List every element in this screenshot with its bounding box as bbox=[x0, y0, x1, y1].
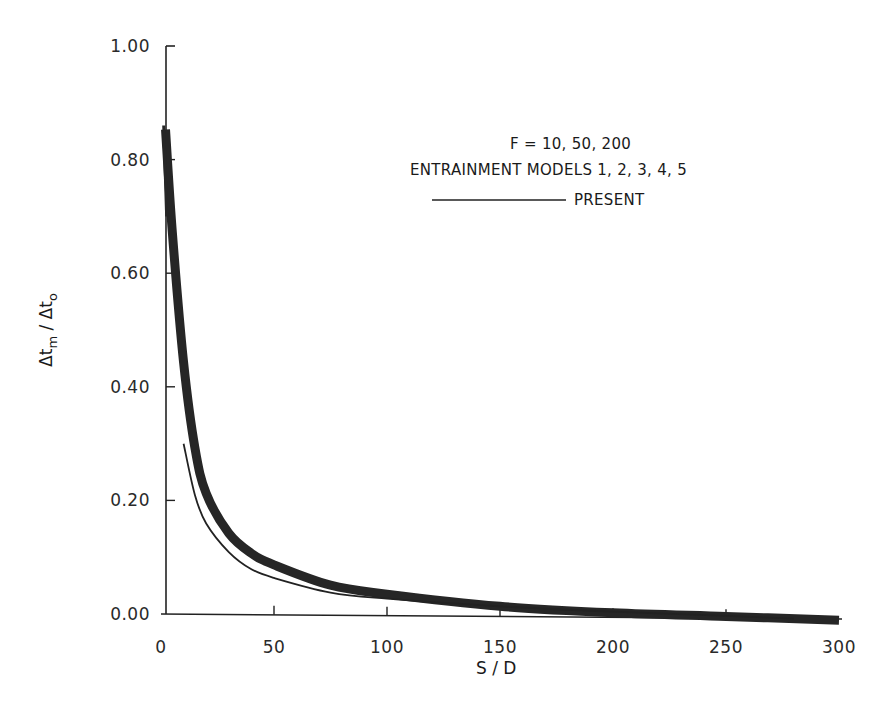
x-tick-label: 150 bbox=[483, 637, 517, 657]
y-tick-label: 0.40 bbox=[110, 377, 150, 397]
x-tick-label: 200 bbox=[596, 637, 630, 657]
chart: 0.000.200.400.600.801.00 050100150200250… bbox=[0, 0, 894, 716]
y-tick-label: 1.00 bbox=[110, 36, 150, 56]
x-tick-label: 250 bbox=[709, 637, 743, 657]
x-tick-label: 0 bbox=[155, 637, 166, 657]
svg-text:Δtm / Δto: Δtm / Δto bbox=[36, 293, 60, 367]
present-curve bbox=[184, 444, 794, 619]
legend-present-label: PRESENT bbox=[574, 191, 645, 209]
legend: F = 10, 50, 200 ENTRAINMENT MODELS 1, 2,… bbox=[410, 135, 687, 209]
y-axis-title-slash: / Δt bbox=[36, 301, 56, 336]
x-tick-label: 300 bbox=[822, 637, 856, 657]
y-tick-label: 0.60 bbox=[110, 263, 150, 283]
x-axis-title: S / D bbox=[476, 658, 516, 678]
axes bbox=[161, 46, 842, 619]
y-tick-label: 0.80 bbox=[110, 150, 150, 170]
y-tick-label: 0.00 bbox=[110, 604, 150, 624]
y-axis-title: Δtm / Δto bbox=[36, 293, 60, 367]
y-tick-label: 0.20 bbox=[110, 490, 150, 510]
y-axis-title-delta-t: Δt bbox=[36, 348, 56, 367]
legend-f-values: F = 10, 50, 200 bbox=[510, 135, 631, 153]
x-tick-label: 50 bbox=[263, 637, 286, 657]
y-axis-title-sub-m: m bbox=[45, 336, 60, 349]
x-tick-label: 100 bbox=[370, 637, 404, 657]
y-axis-title-sub-o: o bbox=[45, 293, 60, 301]
entrainment-models-band bbox=[166, 130, 839, 621]
legend-entrainment-models: ENTRAINMENT MODELS 1, 2, 3, 4, 5 bbox=[410, 161, 687, 179]
